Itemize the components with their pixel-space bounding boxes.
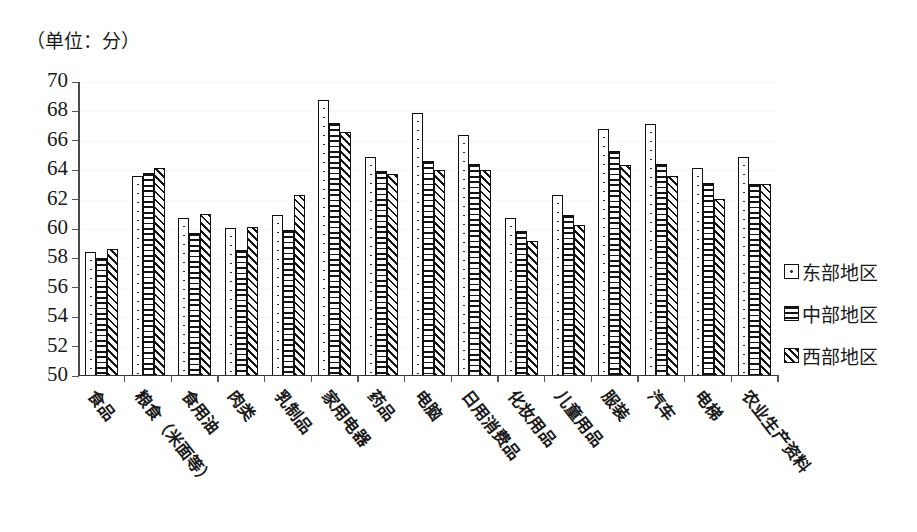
bar-group: [358, 82, 405, 375]
bar-group: [451, 82, 498, 375]
bar: [480, 170, 491, 375]
bar: [469, 164, 480, 375]
y-tick-label: 64: [28, 157, 68, 179]
bar-group: [125, 82, 172, 375]
bar-group: [498, 82, 545, 375]
bar: [434, 170, 445, 375]
bar: [154, 168, 165, 375]
bar: [620, 165, 631, 374]
y-tick-label: 54: [28, 304, 68, 326]
bar-group: [218, 82, 265, 375]
bar-groups: [78, 82, 778, 375]
bar: [574, 225, 585, 374]
bar: [132, 176, 143, 375]
bar: [294, 195, 305, 375]
bar-group: [171, 82, 218, 375]
bar-group: [731, 82, 778, 375]
legend-item-west[interactable]: 西部地区: [784, 334, 914, 376]
bar: [598, 129, 609, 375]
bar: [107, 249, 118, 375]
y-tick-label: 56: [28, 275, 68, 297]
bar-group: [265, 82, 312, 375]
x-axis-label: 电脑: [410, 384, 449, 425]
y-tick-label: 58: [28, 245, 68, 267]
x-axis-label: 电梯: [690, 384, 729, 425]
y-tick-label: 50: [28, 363, 68, 385]
bar: [387, 174, 398, 374]
bar-group: [685, 82, 732, 375]
bar: [200, 214, 211, 375]
bar: [423, 161, 434, 375]
bar: [272, 215, 283, 374]
legend-swatch-dotted-icon: [784, 264, 799, 279]
bar: [365, 157, 376, 375]
bar: [667, 176, 678, 375]
x-axis-label: 儿童用品: [550, 384, 610, 451]
x-axis-label: 农业生产资料: [737, 384, 817, 477]
legend-item-east[interactable]: 东部地区: [784, 250, 914, 292]
legend-label: 东部地区: [802, 258, 878, 285]
bar-chart: （单位：分） 7068666462605856545250 食品粮食（米面等）食…: [0, 0, 917, 532]
bar: [749, 184, 760, 374]
bar: [283, 230, 294, 375]
y-tick-label: 70: [28, 69, 68, 91]
legend-label: 中部地区: [802, 300, 878, 327]
x-axis-label: 肉类: [223, 384, 262, 425]
bar: [225, 228, 236, 374]
bar: [376, 171, 387, 374]
bar: [143, 173, 154, 375]
y-tick-label: 66: [28, 128, 68, 150]
bar: [505, 218, 516, 374]
bar: [609, 151, 620, 375]
bar: [692, 168, 703, 374]
bar: [96, 258, 107, 375]
legend-swatch-horizontal-lines-icon: [784, 306, 799, 321]
bar: [85, 252, 96, 375]
x-axis-label: 食品: [83, 384, 122, 425]
y-tick-label: 52: [28, 334, 68, 356]
x-axis-line: [78, 375, 778, 377]
x-axis-label: 服装: [597, 384, 636, 425]
bar: [760, 184, 771, 374]
bar: [645, 124, 656, 374]
bar: [563, 215, 574, 374]
bar: [412, 113, 423, 375]
bar: [329, 123, 340, 375]
bar: [458, 135, 469, 375]
legend-item-central[interactable]: 中部地区: [784, 292, 914, 334]
bar: [552, 195, 563, 375]
bar-group: [545, 82, 592, 375]
bar: [178, 218, 189, 374]
x-axis-label: 药品: [363, 384, 402, 425]
x-axis-label: 汽车: [643, 384, 682, 425]
y-tick-label: 62: [28, 187, 68, 209]
bar-group: [78, 82, 125, 375]
bar: [527, 241, 538, 374]
bar: [189, 233, 200, 375]
chart-legend: 东部地区中部地区西部地区: [784, 250, 914, 376]
bar: [236, 250, 247, 374]
legend-swatch-diagonal-hatch-icon: [784, 348, 799, 363]
bar-group: [405, 82, 452, 375]
x-axis-label: 乳制品: [270, 384, 319, 438]
bar: [516, 231, 527, 374]
bar: [703, 183, 714, 375]
bar-group: [591, 82, 638, 375]
legend-label: 西部地区: [802, 342, 878, 369]
bar: [714, 199, 725, 375]
y-tick-label: 68: [28, 98, 68, 120]
bar: [318, 100, 329, 375]
bar: [340, 132, 351, 375]
bar-group: [311, 82, 358, 375]
bar: [738, 157, 749, 375]
bar-group: [638, 82, 685, 375]
unit-label: （单位：分）: [26, 26, 140, 53]
y-tick-label: 60: [28, 216, 68, 238]
bar: [656, 164, 667, 375]
x-axis-labels: 食品粮食（米面等）食用油肉类乳制品家用电器药品电脑日用消费品化妆用品儿童用品服装…: [78, 380, 778, 530]
plot-area: 7068666462605856545250: [78, 82, 778, 376]
bar: [247, 227, 258, 375]
